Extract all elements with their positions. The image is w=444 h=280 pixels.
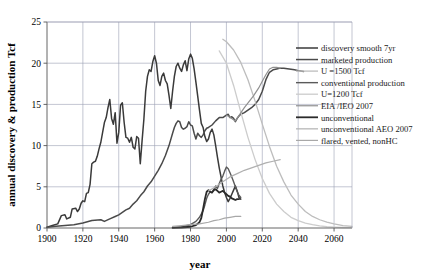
y-tick-label: 10 <box>32 141 42 151</box>
x-tick-label: 2020 <box>253 234 272 244</box>
chart-container: 190019201940196019802000202020402060 051… <box>0 0 444 280</box>
x-tick-label: 1960 <box>145 234 164 244</box>
x-tick-label: 1920 <box>73 234 92 244</box>
x-tick-label: 1900 <box>38 234 57 244</box>
legend-item-label: conventional production <box>321 78 405 88</box>
legend-item-label: flared, vented, nonHC <box>321 136 398 146</box>
x-tick-label: 2000 <box>217 234 236 244</box>
legend-item-label: unconventional <box>321 113 375 123</box>
axis-ticks <box>44 22 335 232</box>
x-tick-labels: 190019201940196019802000202020402060 <box>38 234 344 244</box>
legend-item-label: EIA /IEO 2007 <box>321 101 374 111</box>
legend-item-label: discovery smooth 7yr <box>321 43 396 53</box>
x-axis-title: year <box>190 258 211 270</box>
y-tick-label: 0 <box>36 223 41 233</box>
y-tick-label: 15 <box>32 100 42 110</box>
y-tick-label: 5 <box>36 182 41 192</box>
legend-item-label: U=1200 Tcf <box>321 89 363 99</box>
x-tick-label: 2040 <box>289 234 308 244</box>
legend-item-label: unconventional AEO 2007 <box>321 124 413 134</box>
series-line-0 <box>47 54 241 227</box>
y-tick-labels: 0510152025 <box>32 17 42 233</box>
chart-svg: 190019201940196019802000202020402060 051… <box>0 0 444 280</box>
data-series-layer <box>47 39 352 228</box>
y-tick-label: 25 <box>32 17 42 27</box>
series-line-6 <box>173 189 239 228</box>
x-tick-label: 1980 <box>181 234 200 244</box>
plot-frame <box>47 22 352 228</box>
series-line-1 <box>47 68 304 227</box>
legend: discovery smooth 7yrmarketed productionU… <box>296 43 413 145</box>
y-tick-label: 20 <box>32 59 42 69</box>
legend-item-label: marketed production <box>321 55 393 65</box>
x-tick-label: 1940 <box>109 234 128 244</box>
x-tick-label: 2060 <box>325 234 344 244</box>
series-line-8 <box>173 216 241 226</box>
legend-item-label: U =1500 Tcf <box>321 66 365 76</box>
y-axis-title: annual discovery & production Tcf <box>5 43 17 207</box>
gridlines <box>47 22 352 228</box>
